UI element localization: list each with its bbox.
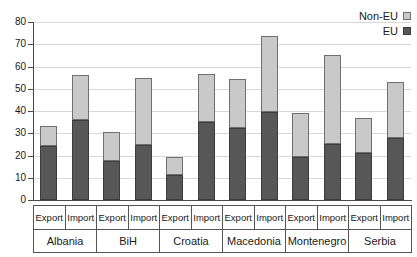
bar-serbia-import[interactable] [387, 82, 404, 200]
bar-segment-eu [72, 120, 89, 200]
x-country-label: BiH [97, 230, 159, 252]
bar-segment-eu [103, 161, 120, 200]
x-flow-label-export: Export [160, 206, 192, 229]
x-flow-label-import: Import [255, 206, 286, 229]
legend-label-non-eu: Non-EU [359, 10, 398, 22]
bar-albania-import[interactable] [72, 75, 89, 200]
bar-segment-non-eu [198, 74, 215, 122]
y-tick-label-80: 80 [0, 17, 26, 27]
x-flow-label-export: Export [286, 206, 318, 229]
x-flow-label-import: Import [66, 206, 97, 229]
chart-legend: Non-EU EU [359, 10, 411, 37]
x-group-macedonia: ExportImportMacedonia [223, 206, 286, 252]
y-tick-label-0: 0 [0, 195, 26, 205]
bar-segment-non-eu [40, 126, 57, 147]
y-tick-label-20: 20 [0, 151, 26, 161]
bar-segment-eu [387, 138, 404, 200]
bar-croatia-import[interactable] [198, 74, 215, 200]
x-group-croatia: ExportImportCroatia [160, 206, 223, 252]
x-flow-label-import: Import [381, 206, 412, 229]
bar-segment-non-eu [387, 82, 404, 138]
bar-segment-non-eu [261, 36, 278, 112]
bar-montenegro-import[interactable] [324, 55, 341, 200]
x-country-label: Macedonia [223, 230, 285, 252]
y-tick-label-40: 40 [0, 106, 26, 116]
x-flow-label-import: Import [129, 206, 160, 229]
legend-label-eu: EU [383, 25, 398, 37]
bar-segment-eu [261, 112, 278, 200]
x-axis-label-table: ExportImportAlbaniaExportImportBiHExport… [33, 205, 412, 253]
bar-serbia-export[interactable] [355, 118, 372, 200]
bar-segment-non-eu [166, 157, 183, 176]
x-flow-row: ExportImport [34, 206, 96, 230]
legend-item-eu[interactable]: EU [383, 25, 411, 37]
x-flow-row: ExportImport [286, 206, 348, 230]
bar-segment-eu [324, 144, 341, 200]
legend-swatch-eu-icon [403, 27, 411, 35]
x-country-label: Serbia [349, 230, 411, 252]
y-tick-label-10: 10 [0, 173, 26, 183]
x-group-albania: ExportImportAlbania [34, 206, 97, 252]
stacked-bar-chart: 01020304050607080 Non-EU EU ExportImport… [0, 0, 417, 257]
x-flow-row: ExportImport [349, 206, 411, 230]
plot-area [33, 22, 411, 200]
bar-segment-non-eu [103, 132, 120, 162]
bar-segment-non-eu [292, 113, 309, 156]
x-group-serbia: ExportImportSerbia [349, 206, 411, 252]
x-flow-row: ExportImport [223, 206, 285, 230]
bar-macedonia-export[interactable] [229, 79, 246, 200]
bar-segment-eu [355, 153, 372, 200]
x-flow-label-export: Export [349, 206, 381, 229]
bar-croatia-export[interactable] [166, 157, 183, 200]
x-country-label: Montenegro [286, 230, 348, 252]
legend-swatch-non-eu-icon [403, 12, 411, 20]
bar-macedonia-import[interactable] [261, 36, 278, 200]
bar-segment-eu [198, 122, 215, 200]
x-flow-row: ExportImport [160, 206, 222, 230]
bar-montenegro-export[interactable] [292, 113, 309, 200]
bar-segment-eu [166, 175, 183, 200]
bar-bih-import[interactable] [135, 78, 152, 200]
x-flow-row: ExportImport [97, 206, 159, 230]
x-group-montenegro: ExportImportMontenegro [286, 206, 349, 252]
x-flow-label-export: Export [97, 206, 129, 229]
x-flow-label-export: Export [223, 206, 255, 229]
bar-segment-non-eu [355, 118, 372, 154]
y-tick-label-70: 70 [0, 39, 26, 49]
x-group-bih: ExportImportBiH [97, 206, 160, 252]
x-country-label: Albania [34, 230, 96, 252]
bar-segment-eu [135, 145, 152, 200]
bar-segment-non-eu [324, 55, 341, 144]
bar-segment-eu [40, 146, 57, 200]
y-tick-label-30: 30 [0, 128, 26, 138]
bar-segment-eu [229, 128, 246, 200]
y-tick-label-50: 50 [0, 84, 26, 94]
bar-bih-export[interactable] [103, 132, 120, 201]
bar-segment-non-eu [135, 78, 152, 146]
legend-item-non-eu[interactable]: Non-EU [359, 10, 411, 22]
bar-segment-non-eu [72, 75, 89, 121]
x-flow-label-export: Export [34, 206, 66, 229]
y-tick-label-60: 60 [0, 62, 26, 72]
bar-segment-non-eu [229, 79, 246, 128]
bar-albania-export[interactable] [40, 126, 57, 201]
x-flow-label-import: Import [318, 206, 349, 229]
x-flow-label-import: Import [192, 206, 223, 229]
x-country-label: Croatia [160, 230, 222, 252]
bar-segment-eu [292, 157, 309, 200]
